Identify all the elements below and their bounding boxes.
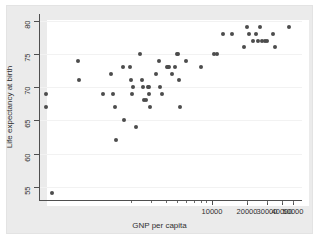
gridline <box>40 120 302 121</box>
gridline <box>40 21 302 22</box>
y-tick-mark <box>34 187 39 188</box>
x-tick-mark <box>212 201 213 205</box>
x-tick-minor-mark <box>201 201 202 203</box>
scatter-point <box>121 65 125 69</box>
y-tick-label: 70 <box>23 87 32 95</box>
y-tick-label-holder: 60 <box>0 149 31 159</box>
scatter-point <box>160 92 164 96</box>
scatter-point <box>178 105 182 109</box>
gridline <box>40 187 302 188</box>
y-tick-label: 60 <box>23 154 32 162</box>
scatter-point <box>176 52 180 56</box>
x-axis-title: GNP per capita <box>0 221 319 230</box>
scatter-point <box>287 25 291 29</box>
y-tick-mark <box>34 21 39 22</box>
y-tick-mark <box>34 54 39 55</box>
scatter-point <box>44 105 48 109</box>
gridline <box>40 154 302 155</box>
x-tick-minor-mark <box>151 201 152 203</box>
y-tick-label-holder: 55 <box>0 182 31 192</box>
x-axis-line <box>39 200 302 201</box>
y-axis-line <box>39 14 40 201</box>
scatter-point <box>111 92 115 96</box>
x-tick-minor-mark <box>293 201 294 203</box>
scatter-point <box>154 72 158 76</box>
scatter-point <box>128 65 132 69</box>
scatter-point <box>173 65 177 69</box>
scatter-point <box>251 39 255 43</box>
scatter-point <box>199 65 203 69</box>
scatter-point <box>247 32 251 36</box>
x-tick-minor-mark <box>206 201 207 203</box>
y-tick-mark <box>34 87 39 88</box>
y-tick-label: 75 <box>23 54 32 62</box>
x-tick-minor-mark <box>177 201 178 203</box>
scatter-point <box>215 52 219 56</box>
scatter-point <box>101 92 105 96</box>
gridline <box>40 87 302 88</box>
x-tick-label: 10000 <box>202 207 223 216</box>
scatter-point <box>138 52 142 56</box>
scatter-point <box>221 32 225 36</box>
scatter-point <box>134 125 138 129</box>
y-tick-mark <box>34 120 39 121</box>
scatter-point <box>113 105 117 109</box>
y-tick-label: 55 <box>23 187 32 195</box>
x-tick-minor-mark <box>247 201 248 203</box>
gridline <box>40 54 302 55</box>
scatter-plot-screenshot: 556065707580 1000020000300004000050000 L… <box>0 0 319 249</box>
y-tick-label-holder: 80 <box>0 16 31 26</box>
scatter-point <box>130 92 134 96</box>
x-tick-label: 20000 <box>237 207 258 216</box>
plot-area <box>47 20 309 206</box>
scatter-point <box>157 59 161 63</box>
y-tick-mark <box>34 154 39 155</box>
scatter-point <box>265 39 269 43</box>
scatter-point <box>147 85 151 89</box>
x-tick-minor-mark <box>282 201 283 203</box>
scatter-point <box>254 32 258 36</box>
y-axis-title: Life expectancy at birth <box>5 66 14 148</box>
x-tick-minor-mark <box>194 201 195 203</box>
x-tick-minor-mark <box>131 201 132 203</box>
scatter-point <box>44 92 48 96</box>
scatter-point <box>76 59 80 63</box>
scatter-point <box>170 72 174 76</box>
scatter-point <box>109 72 113 76</box>
x-tick-minor-mark <box>166 201 167 203</box>
scatter-point <box>184 59 188 63</box>
x-tick-minor-mark <box>267 201 268 203</box>
x-tick-minor-mark <box>186 201 187 203</box>
y-tick-label-holder: 75 <box>0 49 31 59</box>
y-tick-label: 65 <box>23 120 32 128</box>
x-tick-label: 50000 <box>283 207 304 216</box>
y-tick-label: 80 <box>23 21 32 29</box>
